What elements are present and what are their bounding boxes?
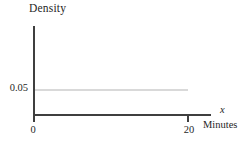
x-axis-unit-label: Minutes [203, 119, 237, 130]
y-axis-line [33, 26, 35, 116]
uniform-density-chart: Density 0.05 0 20 x Minutes [0, 0, 247, 148]
x-tick-mark-0 [33, 114, 35, 122]
x-tick-mark-20 [187, 114, 189, 122]
y-axis-title: Density [29, 2, 66, 14]
y-tick-label-0-05: 0.05 [2, 82, 28, 93]
density-line-segment [35, 89, 188, 91]
x-tick-label-0: 0 [26, 124, 40, 135]
x-tick-label-20: 20 [180, 124, 198, 135]
x-variable-label: x [220, 104, 225, 115]
x-axis-line [33, 114, 211, 116]
